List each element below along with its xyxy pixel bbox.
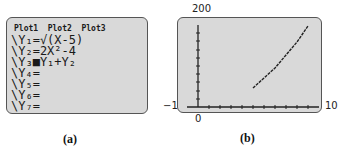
origin-label: 0 [195,113,201,124]
plots-header: Plot1 Plot2 Plot3 [14,24,106,33]
y7-line: \Y₇= [11,101,40,112]
ymax-label: 200 [192,3,211,14]
graph-plot [178,18,323,114]
xmin-label: −1 [163,100,178,111]
caption-a: (a) [63,132,77,147]
xmax-label: 10 [325,100,338,111]
calculator-y-editor-screen: Plot1 Plot2 Plot3 \Y₁=√(X-5) \Y₂=2X²-4 \… [6,17,148,114]
caption-b: (b) [240,131,255,146]
calculator-graph-screen [177,17,322,113]
